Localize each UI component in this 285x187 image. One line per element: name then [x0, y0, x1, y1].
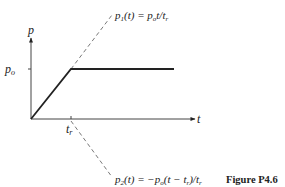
figure-canvas: p t po tr p1(t) = pot/tr p2(t) = −po(t −…	[0, 0, 285, 187]
x-tick-label: tr	[66, 122, 73, 137]
y-axis-label: p	[27, 23, 34, 37]
p1-dashed-line	[71, 15, 112, 69]
load-curve	[31, 69, 174, 119]
y-tick-label: po	[4, 62, 15, 77]
p1-annotation: p1(t) = pot/tr	[114, 9, 168, 23]
x-axis-label: t	[197, 112, 201, 126]
figure-caption: Figure P4.6	[226, 174, 278, 185]
p2-dashed-line	[71, 121, 112, 177]
p2-annotation: p2(t) = −po(t − tr)/tr	[114, 173, 202, 187]
